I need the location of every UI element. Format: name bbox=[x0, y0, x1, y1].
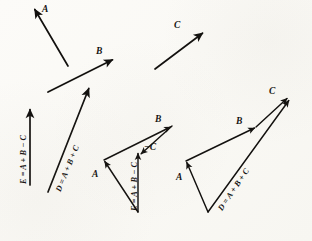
label-vector-a-middle: A bbox=[92, 170, 98, 180]
vector-b-right bbox=[186, 128, 255, 161]
label-vector-a-right: A bbox=[176, 173, 182, 183]
vector-c-given bbox=[155, 33, 203, 69]
label-vector-b-middle: B bbox=[155, 115, 161, 125]
label-vector-b-given: B bbox=[96, 47, 102, 57]
label-vector-minus-c-middle: −C bbox=[144, 143, 156, 153]
vector-diagram-figure: A B C E = A + B − C D = A + B + C A B −C… bbox=[0, 0, 312, 241]
label-vector-c-given: C bbox=[174, 21, 180, 31]
vector-c-right bbox=[256, 99, 287, 128]
vector-b-given bbox=[48, 60, 113, 92]
label-vector-c-right: C bbox=[269, 87, 275, 97]
label-vector-a-given: A bbox=[42, 5, 48, 15]
vector-a-right bbox=[187, 163, 208, 213]
label-vector-b-right: B bbox=[236, 117, 242, 127]
vector-b-middle bbox=[104, 127, 171, 160]
label-resultant-e-middle: E = A + B − C bbox=[131, 162, 139, 211]
vector-a-given bbox=[35, 10, 68, 67]
vector-d-resultant-right bbox=[208, 101, 289, 213]
label-resultant-e-left: E = A + B − C bbox=[20, 135, 28, 184]
